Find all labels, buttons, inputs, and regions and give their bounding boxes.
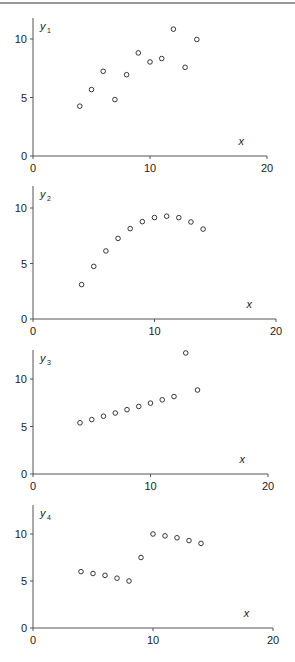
data-point [127, 579, 132, 584]
data-point [78, 104, 83, 109]
data-point [89, 87, 94, 92]
data-point [163, 534, 168, 539]
data-point [79, 569, 84, 574]
x-axis-label: x [238, 135, 245, 147]
y-tick-label: 5 [21, 258, 27, 270]
x-tick-label: 20 [261, 162, 273, 174]
data-point [171, 27, 176, 32]
data-point [124, 72, 129, 77]
data-point [187, 538, 192, 543]
x-tick-label: 0 [30, 634, 36, 646]
data-point [201, 227, 206, 232]
data-point [175, 535, 180, 540]
data-point [101, 69, 106, 74]
x-tick-label: 10 [144, 162, 156, 174]
x-tick-label: 10 [148, 325, 160, 337]
y-tick-label: 0 [21, 622, 27, 634]
x-tick-label: 0 [30, 162, 36, 174]
x-tick-label: 0 [30, 325, 36, 337]
y-tick-label: 5 [21, 421, 27, 433]
data-point [113, 97, 118, 102]
data-point [125, 407, 130, 412]
data-point [136, 404, 141, 409]
y-axis-label: y [39, 507, 47, 519]
y-tick-label: 5 [21, 92, 27, 104]
scatter-panel-1: 051001020y1x [15, 18, 273, 174]
x-tick-label: 10 [144, 480, 156, 492]
x-tick-label: 20 [262, 480, 274, 492]
data-point [183, 65, 188, 70]
x-axis-label: x [238, 453, 245, 465]
scatter-panel-4: 051001020y4x [15, 505, 279, 646]
data-point [104, 249, 109, 254]
scatter-panel-1: 051001020y1x051001020y2x051001020y3x0510… [0, 0, 295, 662]
data-point [151, 532, 156, 537]
y-tick-label: 0 [21, 150, 27, 162]
x-tick-label: 10 [147, 634, 159, 646]
y-axis-label: y [39, 20, 47, 32]
data-point [113, 411, 118, 416]
data-point [177, 215, 182, 220]
y-axis-label: y [39, 188, 47, 200]
y-axis-label-subscript: 1 [47, 27, 51, 34]
data-point [199, 541, 204, 546]
data-point [172, 394, 177, 399]
y-tick-label: 10 [15, 528, 27, 540]
data-point [78, 420, 83, 425]
data-point [115, 576, 120, 581]
data-point [79, 282, 84, 287]
data-point [189, 220, 194, 225]
data-point [183, 351, 188, 356]
data-point [140, 219, 145, 224]
data-point [148, 401, 153, 406]
data-point [128, 226, 133, 231]
data-point [159, 56, 164, 61]
data-point [152, 215, 157, 220]
scatter-panel-3: 051001020y3x [15, 350, 274, 492]
data-point [139, 555, 144, 560]
y-axis-label: y [39, 352, 47, 364]
data-point [116, 236, 121, 241]
y-axis-label-subscript: 3 [47, 359, 51, 366]
y-tick-label: 5 [21, 575, 27, 587]
data-point [91, 264, 96, 269]
x-axis-label: x [246, 298, 253, 310]
y-tick-label: 0 [21, 468, 27, 480]
data-point [103, 573, 108, 578]
x-tick-label: 20 [270, 325, 282, 337]
x-tick-label: 0 [30, 480, 36, 492]
y-tick-label: 10 [15, 373, 27, 385]
x-tick-label: 20 [267, 634, 279, 646]
data-point [148, 60, 153, 65]
data-point [89, 417, 94, 422]
data-point [101, 414, 106, 419]
data-point [160, 398, 165, 403]
y-tick-label: 0 [21, 313, 27, 325]
data-point [164, 214, 169, 219]
data-point [195, 388, 200, 393]
data-point [195, 37, 200, 42]
data-point [136, 51, 141, 56]
scatter-panel-2: 051001020y2x [15, 186, 282, 337]
x-axis-label: x [243, 607, 250, 619]
y-tick-label: 10 [15, 33, 27, 45]
y-axis-label-subscript: 2 [47, 195, 51, 202]
y-axis-label-subscript: 4 [47, 514, 51, 521]
data-point [91, 571, 96, 576]
y-tick-label: 10 [15, 202, 27, 214]
